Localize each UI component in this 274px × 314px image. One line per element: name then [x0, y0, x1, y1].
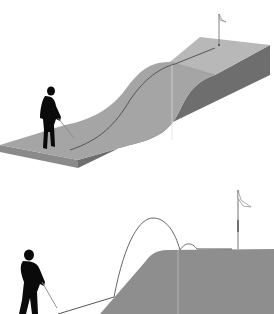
golfer-silhouette-bottom	[19, 250, 45, 314]
hole	[218, 44, 220, 46]
raised-green	[100, 249, 274, 314]
golf-club	[42, 282, 57, 308]
panel-top-putt-slope	[0, 0, 274, 170]
flag-icon	[219, 14, 226, 22]
panel-bottom-chip-shot	[0, 170, 274, 314]
ball-bounce	[180, 244, 197, 250]
golf-illustration	[0, 0, 274, 314]
flag-icon	[238, 190, 251, 207]
